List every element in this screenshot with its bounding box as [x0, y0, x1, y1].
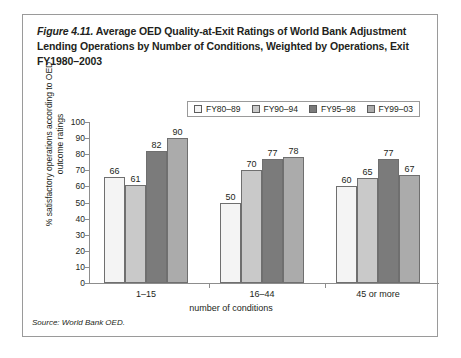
- y-axis-tick-mark: [85, 235, 89, 236]
- x-axis-category-label: 16–44: [249, 289, 274, 299]
- y-axis-tick-label: 70: [59, 165, 85, 175]
- bar-value-label: 50: [225, 192, 235, 202]
- bar[interactable]: 65: [357, 178, 378, 283]
- chart-plot-area: FY80–89FY90–94FY95–98FY99–03 % satisfact…: [23, 15, 439, 338]
- bar-value-label: 78: [288, 146, 298, 156]
- bar-group: 60657767: [336, 122, 420, 283]
- bar[interactable]: 66: [104, 177, 125, 283]
- y-axis-tick-mark: [85, 186, 89, 187]
- y-axis-tick-mark: [85, 138, 89, 139]
- bar[interactable]: 77: [378, 159, 399, 283]
- bar[interactable]: 78: [283, 157, 304, 283]
- y-axis-tick-mark: [85, 154, 89, 155]
- bar[interactable]: 60: [336, 186, 357, 283]
- bar-value-label: 77: [383, 148, 393, 158]
- bar-value-label: 77: [267, 148, 277, 158]
- legend-item[interactable]: FY95–98: [309, 104, 356, 114]
- legend-swatch-icon: [194, 105, 202, 113]
- bar-value-label: 61: [130, 174, 140, 184]
- x-axis-category-label: 1–15: [136, 289, 156, 299]
- bar-value-label: 60: [341, 175, 351, 185]
- bar[interactable]: 90: [167, 138, 188, 283]
- y-axis-tick-label: 20: [59, 246, 85, 256]
- y-axis-tick-label: 80: [59, 149, 85, 159]
- x-axis-tick-mark: [325, 284, 326, 288]
- y-axis-tick-label: 0: [59, 278, 85, 288]
- y-axis-tick-mark: [85, 170, 89, 171]
- legend-label: FY99–03: [379, 104, 414, 114]
- bar-value-label: 70: [246, 159, 256, 169]
- legend-swatch-icon: [309, 105, 317, 113]
- figure-container: Figure 4.11. Average OED Quality-at-Exit…: [22, 14, 438, 337]
- bar[interactable]: 50: [220, 203, 241, 284]
- legend-item[interactable]: FY99–03: [367, 104, 414, 114]
- bar[interactable]: 67: [399, 175, 420, 283]
- y-axis-tick-mark: [85, 283, 89, 284]
- bar-group: 66618290: [104, 122, 188, 283]
- bar-group: 50707778: [220, 122, 304, 283]
- bar-value-label: 67: [404, 164, 414, 174]
- bar-value-label: 66: [109, 166, 119, 176]
- y-axis-tick-mark: [85, 251, 89, 252]
- x-axis-tick-mark: [209, 284, 210, 288]
- bar[interactable]: 82: [146, 151, 167, 283]
- chart-legend: FY80–89FY90–94FY95–98FY99–03: [187, 101, 420, 117]
- bars-area: 666182905070777860657767: [90, 122, 439, 283]
- source-note: Source: World Bank OED.: [32, 318, 125, 327]
- x-axis-category-label: 45 or more: [356, 289, 400, 299]
- legend-swatch-icon: [252, 105, 260, 113]
- legend-item[interactable]: FY80–89: [194, 104, 241, 114]
- x-axis-line: [89, 283, 439, 284]
- legend-label: FY90–94: [264, 104, 299, 114]
- legend-label: FY95–98: [321, 104, 356, 114]
- bar[interactable]: 70: [241, 170, 262, 283]
- y-axis-tick-label: 50: [59, 198, 85, 208]
- bar[interactable]: 61: [125, 185, 146, 283]
- y-axis-tick-label: 10: [59, 262, 85, 272]
- y-axis-tick-label: 30: [59, 230, 85, 240]
- y-axis-tick-label: 40: [59, 214, 85, 224]
- y-axis-tick-label: 90: [59, 133, 85, 143]
- y-axis-tick-mark: [85, 122, 89, 123]
- y-axis-tick-mark: [85, 219, 89, 220]
- legend-item[interactable]: FY90–94: [252, 104, 299, 114]
- y-axis-tick-mark: [85, 203, 89, 204]
- bar-value-label: 65: [362, 167, 372, 177]
- y-axis-tick-label: 60: [59, 181, 85, 191]
- y-axis-tick-mark: [85, 267, 89, 268]
- legend-swatch-icon: [367, 105, 375, 113]
- bar-value-label: 82: [151, 140, 161, 150]
- y-axis-tick-label: 100: [59, 117, 85, 127]
- bar-value-label: 90: [172, 127, 182, 137]
- x-axis-title: number of conditions: [23, 303, 439, 313]
- bar[interactable]: 77: [262, 159, 283, 283]
- legend-label: FY80–89: [206, 104, 241, 114]
